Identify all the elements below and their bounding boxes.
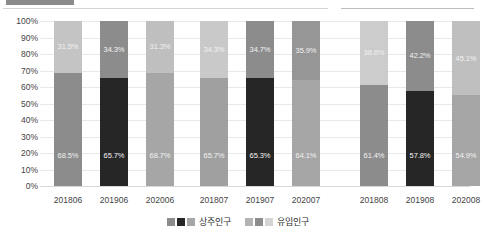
bar-segment-inflow[interactable]: 38.6%	[360, 21, 388, 85]
stacked-bar[interactable]: 31.5%68.5%	[54, 21, 82, 186]
bar-value-label: 42.2%	[410, 51, 431, 60]
legend-color-swatch	[245, 218, 253, 226]
plot-area: 31.5%68.5%20180634.3%65.7%20190631.3%68.…	[40, 21, 470, 186]
chart-legend: 상주인구유입인구	[0, 214, 476, 230]
bar-value-label: 65.3%	[250, 151, 271, 160]
header-accent-bar	[6, 0, 74, 5]
bar-segment-resident[interactable]: 65.3%	[246, 78, 274, 186]
bar-segment-resident[interactable]: 64.1%	[292, 80, 320, 186]
bar-segment-inflow[interactable]: 31.3%	[146, 21, 174, 73]
bar-segment-inflow[interactable]: 34.3%	[200, 21, 228, 78]
bar-segment-inflow[interactable]: 34.7%	[246, 21, 274, 78]
bar-segment-resident[interactable]: 68.7%	[146, 73, 174, 186]
y-axis-tick-label: 10%	[2, 165, 38, 174]
bar-segment-resident[interactable]: 68.5%	[54, 73, 82, 186]
bar-value-label: 54.9%	[456, 151, 477, 160]
bar-value-label: 65.7%	[204, 151, 225, 160]
bar-value-label: 68.7%	[150, 151, 171, 160]
bar-value-label: 31.3%	[150, 42, 171, 51]
x-axis-category-label: 201807	[191, 195, 237, 205]
bar-group: 38.6%61.4%20180842.2%57.8%20190845.1%54.…	[360, 21, 485, 186]
legend-swatch-group	[167, 218, 195, 226]
stacked-bar[interactable]: 34.3%65.7%	[200, 21, 228, 186]
legend-color-swatch	[167, 218, 175, 226]
legend-label: 유입인구	[277, 217, 309, 227]
bar-value-label: 64.1%	[296, 151, 317, 160]
bar-value-label: 35.9%	[296, 46, 317, 55]
stacked-bar[interactable]: 34.7%65.3%	[246, 21, 274, 186]
bar-segment-resident[interactable]: 54.9%	[452, 95, 480, 186]
legend-color-swatch	[265, 218, 273, 226]
bar-value-label: 34.7%	[250, 45, 271, 54]
y-axis-tick-label: 40%	[2, 116, 38, 125]
x-axis-category-label: 202008	[443, 195, 485, 205]
x-axis-category-label: 201908	[397, 195, 443, 205]
bar-value-label: 57.8%	[410, 151, 431, 160]
stacked-bar[interactable]: 31.3%68.7%	[146, 21, 174, 186]
x-axis-category-label: 202007	[283, 195, 329, 205]
y-axis-tick-label: 70%	[2, 66, 38, 75]
stacked-bar[interactable]: 45.1%54.9%	[452, 21, 480, 186]
bar-value-label: 34.3%	[204, 45, 225, 54]
x-axis-category-label: 201906	[91, 195, 137, 205]
stacked-bar-chart: 100%90%80%70%60%50%40%30%20%10%0% 31.5%6…	[0, 16, 476, 211]
horizontal-rule-left	[3, 8, 328, 9]
bar-segment-resident[interactable]: 61.4%	[360, 85, 388, 186]
x-axis-category-label: 201907	[237, 195, 283, 205]
stacked-bar[interactable]: 38.6%61.4%	[360, 21, 388, 186]
bar-segment-resident[interactable]: 57.8%	[406, 91, 434, 186]
y-axis-tick-label: 80%	[2, 50, 38, 59]
legend-color-swatch	[177, 218, 185, 226]
y-axis: 100%90%80%70%60%50%40%30%20%10%0%	[0, 21, 38, 186]
x-axis-category-label: 201806	[45, 195, 91, 205]
bar-value-label: 34.3%	[104, 45, 125, 54]
horizontal-rule-right	[341, 8, 474, 9]
y-axis-tick-label: 30%	[2, 132, 38, 141]
bar-segment-resident[interactable]: 65.7%	[100, 78, 128, 186]
legend-color-swatch	[255, 218, 263, 226]
stacked-bar[interactable]: 34.3%65.7%	[100, 21, 128, 186]
bar-segment-inflow[interactable]: 34.3%	[100, 21, 128, 78]
x-axis-category-label: 201808	[351, 195, 397, 205]
y-axis-tick-label: 90%	[2, 33, 38, 42]
bar-segment-inflow[interactable]: 45.1%	[452, 21, 480, 95]
x-axis-category-label: 202006	[137, 195, 183, 205]
y-axis-tick-label: 100%	[2, 17, 38, 26]
legend-entry[interactable]: 유입인구	[245, 217, 309, 227]
bar-value-label: 68.5%	[58, 151, 79, 160]
bar-group: 34.3%65.7%20180734.7%65.3%20190735.9%64.…	[200, 21, 338, 186]
stacked-bar[interactable]: 35.9%64.1%	[292, 21, 320, 186]
y-axis-tick-label: 50%	[2, 99, 38, 108]
bar-segment-inflow[interactable]: 31.5%	[54, 21, 82, 73]
y-axis-tick-label: 60%	[2, 83, 38, 92]
bar-segment-inflow[interactable]: 42.2%	[406, 21, 434, 91]
y-axis-tick-label: 0%	[2, 182, 38, 191]
stacked-bar[interactable]: 42.2%57.8%	[406, 21, 434, 186]
legend-color-swatch	[187, 218, 195, 226]
bar-value-label: 61.4%	[364, 151, 385, 160]
legend-entry[interactable]: 상주인구	[167, 217, 231, 227]
bar-value-label: 45.1%	[456, 54, 477, 63]
bar-segment-resident[interactable]: 65.7%	[200, 78, 228, 186]
y-axis-tick-label: 20%	[2, 149, 38, 158]
bar-value-label: 38.6%	[364, 48, 385, 57]
bar-value-label: 31.5%	[58, 42, 79, 51]
bar-value-label: 65.7%	[104, 151, 125, 160]
legend-label: 상주인구	[199, 217, 231, 227]
gridline	[40, 186, 470, 187]
bar-group: 31.5%68.5%20180634.3%65.7%20190631.3%68.…	[54, 21, 192, 186]
bar-segment-inflow[interactable]: 35.9%	[292, 21, 320, 80]
legend-swatch-group	[245, 218, 273, 226]
